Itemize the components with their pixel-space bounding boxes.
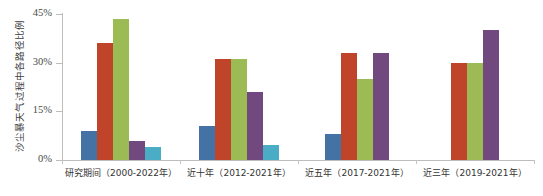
bar-chart: 沙尘暴天气过程中各路径比例 0%15%30%45% 研究期间（2000-2022… bbox=[0, 0, 543, 196]
x-axis-tick bbox=[180, 160, 181, 164]
bar bbox=[129, 141, 145, 160]
bar bbox=[199, 126, 215, 160]
y-axis-title: 沙尘暴天气过程中各路径比例 bbox=[8, 0, 30, 172]
bar bbox=[263, 145, 279, 160]
bar-group bbox=[298, 14, 416, 160]
x-axis-tick bbox=[416, 160, 417, 164]
bar bbox=[247, 92, 263, 160]
bar bbox=[483, 30, 499, 160]
bar-group bbox=[180, 14, 298, 160]
bar bbox=[467, 63, 483, 160]
y-axis-tick-label: 30% bbox=[33, 56, 52, 67]
bar-group bbox=[62, 14, 180, 160]
bar bbox=[341, 53, 357, 160]
bar bbox=[357, 79, 373, 160]
bar bbox=[145, 147, 161, 160]
x-axis-tick bbox=[534, 160, 535, 164]
bar bbox=[97, 43, 113, 160]
y-axis-tick-label: 45% bbox=[33, 7, 52, 18]
bar bbox=[373, 53, 389, 160]
bar bbox=[451, 63, 467, 160]
x-axis-category-label: 研究期间（2000-2022年） bbox=[62, 166, 180, 179]
x-axis-category-label: 近十年（2012-2021年） bbox=[180, 166, 298, 179]
x-axis-tick bbox=[62, 160, 63, 164]
bar bbox=[231, 59, 247, 160]
bar bbox=[215, 59, 231, 160]
x-axis-tick bbox=[298, 160, 299, 164]
x-axis-category-label: 近五年（2017-2021年） bbox=[298, 166, 416, 179]
bar-group bbox=[416, 14, 534, 160]
y-axis-tick-label: 0% bbox=[38, 153, 52, 164]
bar bbox=[113, 19, 129, 160]
y-axis-title-text: 沙尘暴天气过程中各路径比例 bbox=[12, 20, 26, 153]
y-axis-tick-label: 15% bbox=[33, 104, 52, 115]
x-axis-category-label: 近三年（2019-2021年） bbox=[416, 166, 534, 179]
bar bbox=[81, 131, 97, 160]
bar bbox=[325, 134, 341, 160]
